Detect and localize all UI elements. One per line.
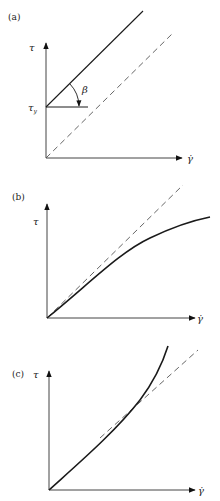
angle-arc-icon — [70, 84, 79, 106]
panel-b-label: (b) — [12, 192, 25, 202]
panel-b-shear-thinning-curve — [47, 217, 210, 318]
panel-a-dashed-line — [46, 33, 173, 158]
panel-c: (c) τ γ̇ — [12, 346, 204, 496]
panel-c-shear-thickening-curve — [49, 346, 168, 490]
panel-c-x-label: γ̇ — [198, 485, 204, 496]
panel-a: (a) τ γ̇ β τy — [8, 11, 193, 164]
panel-a-x-label: γ̇ — [187, 153, 193, 164]
panel-c-label: (c) — [12, 369, 24, 379]
rheology-diagram: (a) τ γ̇ β τy (b) τ γ̇ (c) τ γ̇ — [0, 0, 220, 501]
panel-a-y-label: τ — [29, 42, 35, 53]
panel-b: (b) τ γ̇ — [12, 185, 210, 324]
panel-b-dashed-line — [47, 185, 183, 318]
panel-b-y-label: τ — [33, 216, 39, 227]
panel-a-angle-label: β — [81, 84, 88, 95]
panel-a-yield-label: τy — [28, 102, 38, 115]
panel-c-dashed-line — [100, 350, 198, 438]
panel-a-bingham-line — [46, 11, 143, 107]
panel-a-label: (a) — [8, 12, 20, 22]
panel-c-y-label: τ — [33, 369, 39, 380]
panel-b-x-label: γ̇ — [197, 313, 203, 324]
